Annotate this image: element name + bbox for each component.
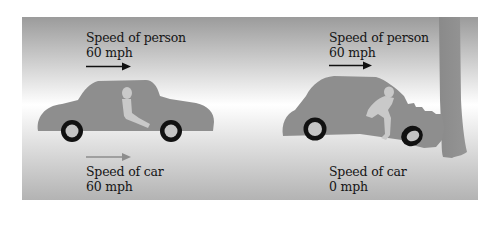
person-speed-value: 60 mph — [329, 45, 429, 60]
car-wheel-rear — [304, 118, 327, 141]
car-wheel-rear — [61, 120, 83, 142]
person-speed-title: Speed of person — [86, 30, 186, 45]
car-speed-value: 0 mph — [329, 179, 407, 194]
car-speed-value: 60 mph — [86, 179, 164, 194]
person-speed-label-right: Speed of person 60 mph — [329, 30, 429, 60]
car-wheel-front — [160, 120, 182, 142]
person-speed-value: 60 mph — [86, 45, 186, 60]
car-speed-label-left: Speed of car 60 mph — [86, 164, 164, 194]
car-speed-title: Speed of car — [86, 164, 164, 179]
person-speed-label-left: Speed of person 60 mph — [86, 30, 186, 60]
car-speed-label-right: Speed of car 0 mph — [329, 164, 407, 194]
person-speed-title: Speed of person — [329, 30, 429, 45]
car-speed-title: Speed of car — [329, 164, 407, 179]
